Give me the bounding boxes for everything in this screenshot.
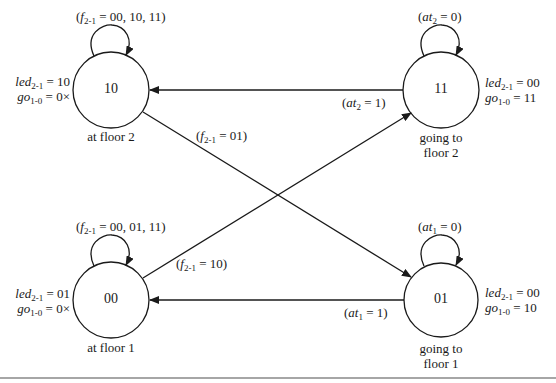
go-var: go xyxy=(17,89,30,104)
transition-00-to-11 xyxy=(143,113,411,278)
transition-11-to-10-label: (at2 = 1) xyxy=(342,95,386,110)
go-sub: 1-0 xyxy=(30,96,42,106)
transition-01-to-00-label: (at1 = 1) xyxy=(344,305,388,320)
led-var: led xyxy=(485,75,501,90)
state-diagram xyxy=(0,0,556,383)
self-loop-01-label: (at1 = 0) xyxy=(418,219,462,234)
transition-10-to-01-label: (f2-1 = 01) xyxy=(196,128,247,143)
state-11-outputs: led2-1 = 00 go1-0 = 11 xyxy=(485,75,540,105)
go-output: go1-0 = 11 xyxy=(485,90,540,105)
self-loop-00 xyxy=(91,235,129,266)
self-loop-10 xyxy=(91,25,129,56)
caption-line: floor 1 xyxy=(401,356,481,371)
led-value: 10 xyxy=(57,74,70,89)
input-values: 0 xyxy=(451,9,458,24)
led-value: 01 xyxy=(57,286,70,301)
go-sub: 1-0 xyxy=(498,97,510,107)
led-var: led xyxy=(15,74,31,89)
led-output: led2-1 = 00 xyxy=(485,75,540,90)
caption-line: going to xyxy=(401,130,481,145)
state-00-caption: at floor 1 xyxy=(71,340,151,355)
input-sub: 2 xyxy=(432,16,437,26)
input-values: 0 xyxy=(451,219,458,234)
led-output: led2-1 = 10 xyxy=(15,74,70,89)
transition-10-to-01 xyxy=(143,112,411,277)
go-output: go1-0 = 0× xyxy=(15,301,70,316)
cond-var: at xyxy=(348,305,358,320)
input-var: at xyxy=(422,9,432,24)
state-00-outputs: led2-1 = 01 go1-0 = 0× xyxy=(15,286,70,316)
go-var: go xyxy=(485,300,498,315)
cond-sub: 1 xyxy=(358,312,363,322)
go-output: go1-0 = 0× xyxy=(15,89,70,104)
state-00-label: 00 xyxy=(91,291,131,307)
input-sub: 1 xyxy=(432,226,437,236)
led-value: 00 xyxy=(527,285,540,300)
led-value: 00 xyxy=(527,75,540,90)
cond-sub: 2-1 xyxy=(204,135,216,145)
go-value: 10 xyxy=(524,300,537,315)
state-11-caption: going to floor 2 xyxy=(401,130,481,160)
state-01-label: 01 xyxy=(421,291,461,307)
transition-00-to-11-label: (f2-1 = 10) xyxy=(176,256,227,271)
go-sub: 1-0 xyxy=(498,307,510,317)
go-value: 0× xyxy=(56,89,70,104)
go-value: 0× xyxy=(56,301,70,316)
cond-value: 1 xyxy=(375,95,382,110)
led-var: led xyxy=(15,286,31,301)
cond-var: at xyxy=(346,95,356,110)
self-loop-11-label: (at2 = 0) xyxy=(418,9,462,24)
state-10-outputs: led2-1 = 10 go1-0 = 0× xyxy=(15,74,70,104)
input-values: 00, 01, 11 xyxy=(110,219,162,234)
cond-value: 01 xyxy=(230,128,243,143)
led-output: led2-1 = 01 xyxy=(15,286,70,301)
caption-line: at floor 2 xyxy=(71,129,151,144)
cond-value: 10 xyxy=(210,256,223,271)
state-10-label: 10 xyxy=(91,81,131,97)
caption-line: going to xyxy=(401,341,481,356)
input-sub: 2-1 xyxy=(84,16,96,26)
state-10-caption: at floor 2 xyxy=(71,129,151,144)
self-loop-01 xyxy=(421,235,459,266)
state-11-label: 11 xyxy=(421,81,461,97)
go-value: 11 xyxy=(524,90,537,105)
self-loop-11 xyxy=(421,25,459,56)
go-var: go xyxy=(485,90,498,105)
self-loop-00-label: (f2-1 = 00, 01, 11) xyxy=(76,219,166,234)
self-loop-10-label: (f2-1 = 00, 10, 11) xyxy=(76,9,166,24)
go-var: go xyxy=(17,301,30,316)
input-values: 00, 10, 11 xyxy=(110,9,162,24)
led-var: led xyxy=(485,285,501,300)
input-sub: 2-1 xyxy=(84,226,96,236)
go-output: go1-0 = 10 xyxy=(485,300,540,315)
cond-sub: 2 xyxy=(356,102,361,112)
input-var: at xyxy=(422,219,432,234)
caption-line: at floor 1 xyxy=(71,340,151,355)
go-sub: 1-0 xyxy=(30,308,42,318)
caption-line: floor 2 xyxy=(401,145,481,160)
cond-sub: 2-1 xyxy=(184,263,196,273)
led-output: led2-1 = 00 xyxy=(485,285,540,300)
state-01-caption: going to floor 1 xyxy=(401,341,481,371)
state-01-outputs: led2-1 = 00 go1-0 = 10 xyxy=(485,285,540,315)
cond-value: 1 xyxy=(377,305,384,320)
